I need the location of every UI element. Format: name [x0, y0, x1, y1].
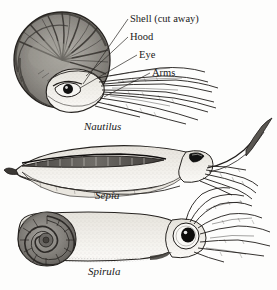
sepia-figure	[4, 118, 272, 199]
caption-sepia: Sepia	[95, 189, 119, 201]
caption-spirula: Spirula	[88, 265, 120, 277]
label-eye: Eye	[139, 50, 155, 61]
illustration-plate: Shell (cut away) Hood Eye Arms Nautilus …	[0, 0, 277, 290]
caption-nautilus: Nautilus	[84, 120, 121, 132]
spirula-figure	[14, 188, 270, 270]
label-hood: Hood	[130, 32, 153, 43]
label-arms: Arms	[152, 68, 175, 79]
spirula-eye	[173, 223, 199, 249]
cephalopod-artwork	[0, 0, 277, 290]
label-shell: Shell (cut away)	[130, 14, 199, 25]
